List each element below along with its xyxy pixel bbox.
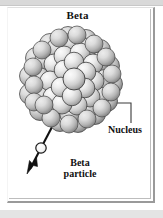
nucleus-sphere-cluster [20, 26, 123, 133]
beta-decay-figure: Beta [0, 0, 163, 218]
beta-particle-label-line1: Beta [52, 157, 108, 168]
beta-decay-artwork [0, 0, 163, 218]
emitted-beta-particle [36, 143, 46, 153]
beta-particle-label-line2: particle [52, 168, 108, 179]
beta-particle-label: Beta particle [52, 157, 108, 179]
nucleus-label: Nucleus [108, 124, 142, 135]
